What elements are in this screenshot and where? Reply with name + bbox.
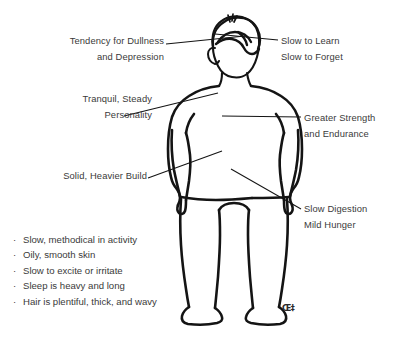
callout-tranquil: Tranquil, Steady Personality bbox=[36, 91, 152, 122]
list-item: · Hair is plentiful, thick, and wavy bbox=[12, 294, 202, 309]
list-item-label: Hair is plentiful, thick, and wavy bbox=[23, 296, 157, 307]
list-item: · Slow to excite or irritate bbox=[12, 263, 202, 278]
diagram-canvas: Tendency for Dullness and Depression Slo… bbox=[0, 0, 403, 341]
callout-tranquil-line2: Personality bbox=[36, 107, 152, 123]
bullet-glyph: · bbox=[13, 232, 16, 247]
list-item: · Oily, smooth skin bbox=[12, 247, 202, 262]
bullet-glyph: · bbox=[13, 294, 16, 309]
callout-learn-line2: Slow to Forget bbox=[281, 49, 401, 65]
callout-learn-line1: Slow to Learn bbox=[281, 35, 340, 46]
callout-strength-line1: Greater Strength bbox=[304, 112, 375, 123]
callout-dullness: Tendency for Dullness and Depression bbox=[44, 33, 164, 64]
bullet-glyph: · bbox=[13, 263, 16, 278]
leader-line-build bbox=[148, 151, 222, 178]
callout-build-line1: Solid, Heavier Build bbox=[63, 170, 147, 181]
list-item: · Slow, methodical in activity bbox=[12, 232, 202, 247]
callout-digestion-line2: Mild Hunger bbox=[304, 217, 403, 233]
callout-digestion: Slow Digestion Mild Hunger bbox=[304, 201, 403, 232]
callout-tranquil-line1: Tranquil, Steady bbox=[82, 93, 152, 104]
list-item-label: Sleep is heavy and long bbox=[23, 280, 125, 291]
callout-digestion-line1: Slow Digestion bbox=[304, 203, 367, 214]
list-item-label: Slow, methodical in activity bbox=[23, 234, 137, 245]
list-item: · Sleep is heavy and long bbox=[12, 278, 202, 293]
trait-list: · Slow, methodical in activity · Oily, s… bbox=[12, 232, 202, 309]
list-item-label: Slow to excite or irritate bbox=[23, 265, 123, 276]
bullet-glyph: · bbox=[13, 278, 16, 293]
callout-build: Solid, Heavier Build bbox=[44, 168, 147, 184]
callout-learn: Slow to Learn Slow to Forget bbox=[281, 33, 401, 64]
leader-line-strength bbox=[222, 116, 301, 117]
artist-signature-mark: Œ‡ bbox=[282, 304, 294, 313]
callout-strength: Greater Strength and Endurance bbox=[304, 110, 403, 141]
callout-dullness-line2: and Depression bbox=[44, 49, 164, 65]
list-item-label: Oily, smooth skin bbox=[23, 249, 95, 260]
callout-dullness-line1: Tendency for Dullness bbox=[70, 35, 164, 46]
callout-strength-line2: and Endurance bbox=[304, 126, 403, 142]
bullet-glyph: · bbox=[13, 247, 16, 262]
